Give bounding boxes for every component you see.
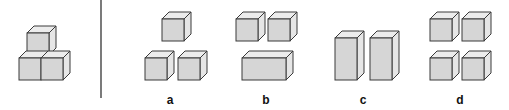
option-label-c: c <box>360 93 367 107</box>
option-b-cube-1 <box>236 12 265 41</box>
option-c-tall-block-1 <box>335 31 364 80</box>
option-a-cube-3-front-face <box>178 58 200 80</box>
option-c-tall-block-2-front-face <box>370 38 392 80</box>
option-b-cube-2 <box>268 12 297 41</box>
option-d-cube-3 <box>430 51 459 80</box>
option-label-b: b <box>262 93 269 107</box>
option-b-wide-block-front-face <box>242 58 286 80</box>
option-d-cube-1-front-face <box>430 19 452 41</box>
reference-cube-bottom-left-front-face <box>19 58 41 80</box>
option-label-d: d <box>456 93 463 107</box>
option-c-tall-block-1-front-face <box>335 38 357 80</box>
option-b[interactable] <box>236 12 297 80</box>
option-a-cube-1-front-face <box>162 19 184 41</box>
option-d-cube-4 <box>462 51 491 80</box>
option-d[interactable] <box>430 12 491 80</box>
option-a-cube-2-front-face <box>145 58 167 80</box>
option-c-tall-block-2-side-face <box>392 31 399 80</box>
reference-shape <box>19 26 70 80</box>
option-c-tall-block-1-side-face <box>357 31 364 80</box>
option-d-cube-3-front-face <box>430 58 452 80</box>
option-b-cube-1-front-face <box>236 19 258 41</box>
option-d-cube-2 <box>462 12 491 41</box>
option-d-cube-2-front-face <box>462 19 484 41</box>
option-c-tall-block-2 <box>370 31 399 80</box>
option-d-cube-1 <box>430 12 459 41</box>
reference-cube-bottom-right-front-face <box>41 58 63 80</box>
option-a[interactable] <box>145 12 207 80</box>
option-b-wide-block <box>242 51 293 80</box>
option-a-cube-2 <box>145 51 174 80</box>
option-b-cube-2-front-face <box>268 19 290 41</box>
option-d-cube-4-front-face <box>462 58 484 80</box>
option-a-cube-3 <box>178 51 207 80</box>
option-label-a: a <box>167 93 174 107</box>
option-c[interactable] <box>335 31 399 80</box>
cube-puzzle-figure: a b c d <box>0 0 509 110</box>
reference-cube-bottom-right <box>41 51 70 80</box>
option-b-wide-block-top-face <box>242 51 293 58</box>
option-a-cube-1 <box>162 12 191 41</box>
